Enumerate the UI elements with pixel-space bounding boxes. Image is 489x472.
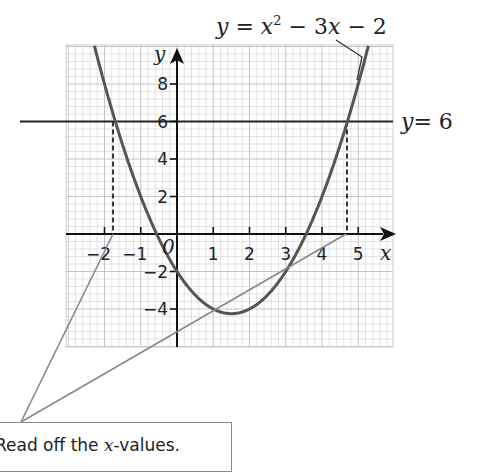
y-tick-label: 4 (157, 149, 168, 169)
callout-text: Read off the x-values. (0, 435, 180, 455)
x-axis-label: x (380, 241, 391, 265)
callout-pointer-right (21, 234, 346, 422)
line-label: y= 6 (400, 109, 453, 134)
x-tick-label: 3 (280, 244, 291, 264)
callout-pointer-left (21, 234, 113, 422)
origin-label: 0 (162, 235, 175, 259)
parabola-curve (94, 46, 368, 314)
y-tick-label: 2 (157, 187, 168, 207)
x-tick-label: 1 (208, 244, 219, 264)
curve-label: y = x2 − 3x − 2 (215, 13, 387, 39)
y-tick-label: −4 (143, 299, 168, 319)
callout-box: Read off the x-values. (0, 422, 232, 472)
y-tick-label: −2 (143, 262, 168, 282)
y-tick-label: 6 (157, 112, 168, 132)
y-tick-label: 8 (157, 74, 168, 94)
x-tick-label: 5 (353, 244, 364, 264)
y-axis-label: y (153, 42, 166, 66)
x-tick-label: 2 (244, 244, 255, 264)
